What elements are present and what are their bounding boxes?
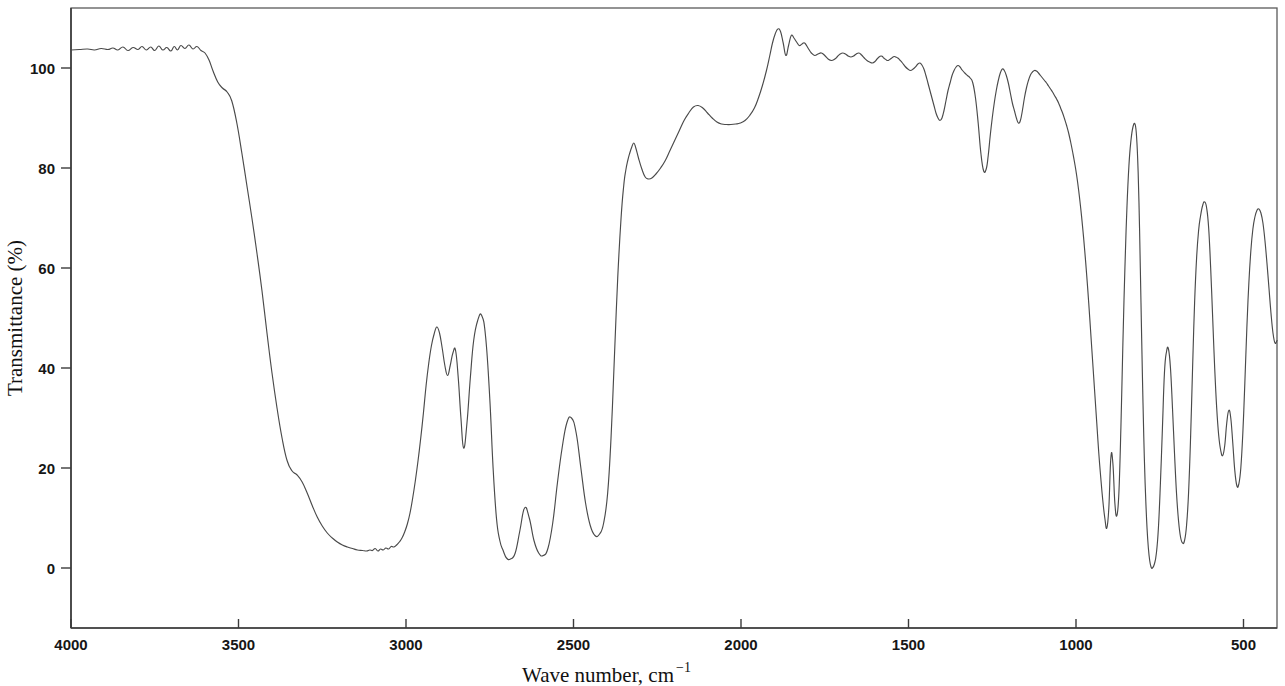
x-axis-title-label: Wave number, cm [522, 663, 674, 686]
x-tick-label: 1000 [1059, 636, 1092, 653]
x-axis-ticks: 4000350030002500200015001000500 [54, 619, 1256, 653]
y-tick-label: 20 [38, 460, 55, 477]
x-tick-label: 500 [1231, 636, 1256, 653]
x-tick-label: 2500 [557, 636, 590, 653]
y-tick-label: 100 [30, 60, 55, 77]
y-axis-ticks: 020406080100 [30, 60, 71, 577]
y-tick-label: 0 [47, 560, 55, 577]
y-axis-title-label: Transmittance (%) [3, 240, 27, 396]
x-tick-label: 3500 [222, 636, 255, 653]
y-tick-label: 80 [38, 160, 55, 177]
x-tick-label: 2000 [724, 636, 757, 653]
spectrum-trace [71, 29, 1277, 569]
y-tick-label: 40 [38, 360, 55, 377]
x-axis-title: Wave number, cm −1 [522, 660, 691, 686]
x-tick-label: 4000 [54, 636, 87, 653]
ir-spectrum-figure: 4000350030002500200015001000500 02040608… [0, 0, 1285, 686]
x-tick-label: 1500 [892, 636, 925, 653]
x-axis-title-superscript: −1 [676, 660, 691, 675]
y-tick-label: 60 [38, 260, 55, 277]
spectrum-plot: 4000350030002500200015001000500 02040608… [0, 0, 1285, 686]
x-tick-label: 3000 [389, 636, 422, 653]
plot-frame [71, 8, 1277, 628]
